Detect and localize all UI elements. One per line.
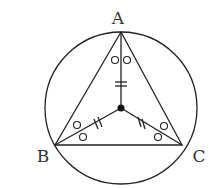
segment-oc bbox=[121, 108, 182, 145]
center-point-o bbox=[118, 105, 125, 112]
geometry-diagram: A B C bbox=[0, 0, 220, 188]
label-c: C bbox=[192, 146, 205, 166]
tick-marks-oc bbox=[138, 117, 145, 129]
label-a: A bbox=[111, 8, 125, 28]
label-b: B bbox=[37, 146, 50, 166]
segment-ob bbox=[55, 108, 121, 145]
